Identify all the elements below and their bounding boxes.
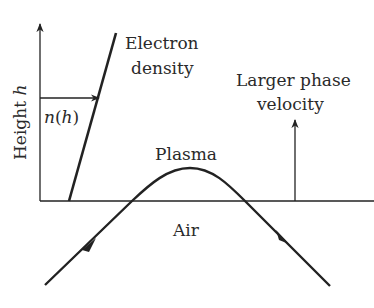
electron-density-label-line2: density (131, 58, 194, 78)
larger-phase-velocity-label-line1: Larger phase (236, 70, 351, 90)
height-axis-label: Height h (10, 85, 30, 160)
plasma-refraction-diagram: Height h Electron density n(h) Larger ph… (0, 0, 374, 308)
air-label: Air (172, 220, 200, 240)
ray-arrow-outgoing-icon (276, 230, 289, 244)
electron-density-label-line1: Electron (125, 33, 199, 53)
larger-phase-velocity-label-line2: velocity (256, 94, 324, 114)
n-of-h-label: n(h) (44, 107, 79, 127)
plasma-label: Plasma (155, 144, 217, 164)
ray-arrow-incoming-icon (82, 238, 96, 252)
